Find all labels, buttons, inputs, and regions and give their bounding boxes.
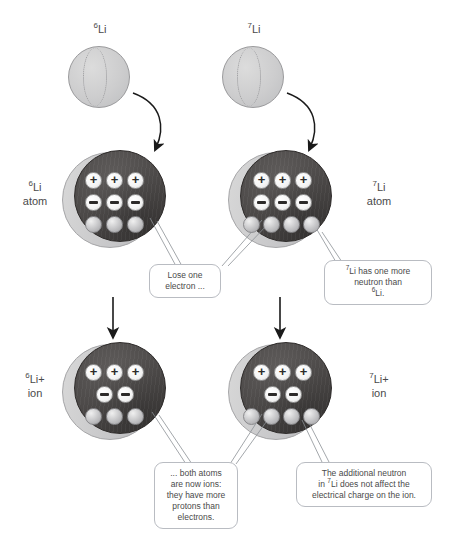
callout-line: Lose one: [157, 270, 213, 281]
callout-neutron-no-charge: The additional neutron in 7Li does not a…: [296, 462, 432, 507]
neutron-row-li6-atom: [85, 216, 144, 233]
electron-row-li7-atom: [253, 194, 312, 211]
neutron: [263, 216, 280, 233]
neutron: [263, 408, 280, 425]
proton: +: [127, 364, 144, 381]
neutron: [303, 408, 320, 425]
proton: +: [85, 364, 102, 381]
label-line-1: 6Li: [8, 180, 62, 194]
neutron: [85, 216, 102, 233]
curved-arrow-li7: [287, 93, 315, 148]
atom-li6: + + +: [62, 150, 166, 254]
callout-line: in 7Li does not affect the: [304, 479, 424, 490]
proton: +: [295, 364, 312, 381]
proton: +: [295, 172, 312, 189]
neutron-row-li7-ion: [243, 408, 320, 425]
electron-row-li7-ion: [264, 386, 302, 403]
neutron: [243, 216, 260, 233]
electron-row-li6-ion: [96, 386, 134, 403]
atom-li7: + + +: [228, 150, 346, 254]
callout-line: protons than: [162, 501, 230, 512]
neutron: [283, 216, 300, 233]
proton: +: [127, 172, 144, 189]
neutron: [127, 216, 144, 233]
element-symbol: Li+: [30, 373, 45, 385]
proton: +: [106, 172, 123, 189]
element-symbol: Li: [33, 181, 42, 193]
label-line-1: 6Li+: [8, 372, 62, 386]
electron: [106, 194, 123, 211]
label-li7-top: 7Li: [228, 22, 280, 36]
neutron: [303, 216, 320, 233]
electron: [85, 194, 102, 211]
label-line-2: ion: [352, 386, 406, 400]
proton: +: [85, 172, 102, 189]
callout-line: are now ions:: [162, 479, 230, 490]
label-li7-ion: 7Li+ ion: [352, 372, 406, 400]
proton: +: [106, 364, 123, 381]
sphere-li7-top: [222, 46, 284, 108]
neutron: [243, 408, 260, 425]
electron: [117, 386, 134, 403]
electron: [295, 194, 312, 211]
neutron-row-li7-atom: [243, 216, 320, 233]
symbol-li: Li: [98, 23, 107, 35]
electron: [264, 386, 281, 403]
callout-extra-neutron: 7Li has one more neutron than 6Li.: [324, 260, 432, 305]
callout-line: 6Li.: [332, 288, 424, 299]
proton: +: [274, 172, 291, 189]
callout-line: neutron than: [332, 277, 424, 288]
callout-line: The additional neutron: [304, 468, 424, 479]
neutron: [283, 408, 300, 425]
label-line-1: 7Li: [352, 180, 406, 194]
proton-row-li6-ion: + + +: [85, 364, 144, 381]
neutron-row-li6-ion: [85, 408, 144, 425]
element-symbol: Li+: [374, 373, 389, 385]
label-li7-atom: 7Li atom: [352, 180, 406, 208]
diagram-canvas: 6Li 7Li 6Li atom + + +: [0, 0, 461, 547]
label-line-2: ion: [8, 386, 62, 400]
element-symbol: Li: [377, 181, 386, 193]
callout-line: electrons.: [162, 512, 230, 523]
callout-line: ... both atoms: [162, 468, 230, 479]
neutron: [127, 408, 144, 425]
callout-line: electrical charge on the ion.: [304, 490, 424, 501]
electron: [274, 194, 291, 211]
electron: [253, 194, 270, 211]
sphere-seam: [83, 48, 107, 106]
callout-line: electron ...: [157, 281, 213, 292]
label-line-2: atom: [8, 194, 62, 208]
proton: +: [253, 172, 270, 189]
electron: [127, 194, 144, 211]
neutron: [85, 408, 102, 425]
callout-lose-electron: Lose one electron ...: [149, 264, 221, 298]
sphere-li6-top: [68, 46, 130, 108]
proton-row-li7-atom: + + +: [253, 172, 312, 189]
ion-li7: + + +: [228, 342, 346, 446]
electron-row-li6-atom: [85, 194, 144, 211]
label-line-2: atom: [352, 194, 406, 208]
callout-line: 7Li has one more: [332, 266, 424, 277]
label-li6-atom: 6Li atom: [8, 180, 62, 208]
proton-row-li6-atom: + + +: [85, 172, 144, 189]
neutron: [106, 408, 123, 425]
ion-li6: + + +: [62, 342, 166, 446]
proton: +: [274, 364, 291, 381]
electron: [96, 386, 113, 403]
neutron: [106, 216, 123, 233]
proton: +: [253, 364, 270, 381]
label-li6-top: 6Li: [74, 22, 126, 36]
label-line-1: 7Li+: [352, 372, 406, 386]
electron: [285, 386, 302, 403]
label-li6-ion: 6Li+ ion: [8, 372, 62, 400]
callout-both-ions: ... both atoms are now ions: they have m…: [154, 462, 238, 529]
symbol-li: Li: [252, 23, 261, 35]
sphere-seam: [237, 48, 261, 106]
callout-line: they have more: [162, 490, 230, 501]
curved-arrow-li6: [133, 93, 161, 148]
proton-row-li7-ion: + + +: [253, 364, 312, 381]
